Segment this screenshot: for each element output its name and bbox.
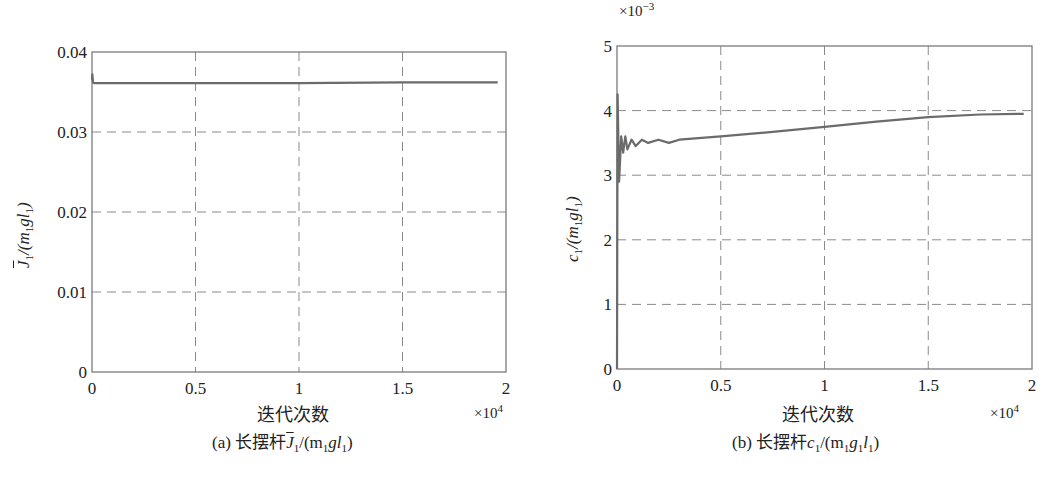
- y-tick-label: 1: [604, 295, 613, 314]
- x-axis-label-a: 迭代次数: [257, 400, 329, 426]
- x-tick-label: 1.5: [918, 376, 939, 395]
- x-tick-label: 0: [613, 376, 622, 395]
- x-tick-label: 0.5: [185, 379, 206, 398]
- y-tick-label: 0.02: [57, 203, 87, 222]
- y-tick-label: 0.03: [57, 123, 87, 142]
- y-multiplier-b: ×10−3: [619, 0, 654, 20]
- data-series-line: [617, 94, 1024, 369]
- y-tick-label: 0.01: [57, 283, 87, 302]
- x-tick-label: 1: [820, 376, 829, 395]
- y-axis-label-a: J1/(m1gl1): [14, 202, 35, 268]
- y-tick-label: 3: [604, 166, 613, 185]
- x-axis-label-b: 迭代次数: [782, 400, 854, 426]
- y-tick-label: 4: [604, 102, 613, 121]
- caption-a: (a) 长摆杆J1/(m1gl1): [212, 428, 353, 454]
- x-tick-label: 0: [88, 379, 97, 398]
- y-tick-label: 0: [604, 360, 613, 379]
- x-tick-label: 0.5: [710, 376, 731, 395]
- y-tick-label: 5: [604, 37, 613, 56]
- x-tick-label: 1: [295, 379, 304, 398]
- x-multiplier-b: ×104: [990, 402, 1019, 422]
- x-multiplier-a: ×104: [474, 402, 503, 422]
- chart-panel-a: 00.511.5200.010.020.030.04 J1/(m1gl1) 迭代…: [0, 0, 527, 486]
- y-axis-label-b: c1/(m1gl1): [563, 196, 584, 262]
- caption-b: (b) 长摆杆c1/(m1g1l1): [732, 428, 879, 454]
- x-tick-label: 2: [1028, 376, 1037, 395]
- x-tick-label: 2: [502, 379, 511, 398]
- y-tick-label: 0.04: [57, 43, 87, 62]
- chart-panel-b: 00.511.52012345 ×10−3 c1/(m1gl1) 迭代次数 ×1…: [527, 0, 1055, 486]
- y-tick-label: 0: [79, 363, 88, 382]
- data-series-line: [92, 74, 498, 83]
- y-tick-label: 2: [604, 231, 613, 250]
- x-tick-label: 1.5: [392, 379, 413, 398]
